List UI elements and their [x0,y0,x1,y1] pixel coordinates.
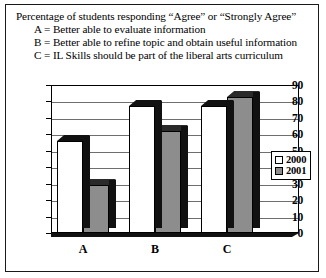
y-tick-label: 70 [292,113,303,123]
caption-line-b: B = Better able to refine topic and obta… [16,36,312,49]
bar-A-2000 [57,141,83,233]
bar-front-face [129,106,155,233]
bar-chart: ABC 0102030405060708090 [20,79,306,265]
y-tick-mark [46,217,51,218]
x-axis: ABC [51,242,299,258]
bar-side-face [253,92,260,228]
bar-front-face [201,106,227,233]
y-tick-label: 10 [292,212,303,222]
legend-label-2001: 2001 [286,166,306,176]
caption-line-c: C = IL Skills should be part of the libe… [16,49,312,62]
bar-series-group [51,85,299,233]
x-tick-label-B: B [151,242,159,257]
y-axis [20,79,46,233]
y-tick-mark [46,167,51,168]
chart-legend: 2000 2001 [271,151,311,180]
bar-side-face [227,101,234,228]
y-tick-mark [46,151,51,152]
y-tick-mark [46,134,51,135]
legend-item-2000: 2000 [275,154,306,165]
legend-swatch-2000 [275,156,283,164]
x-tick-label-C: C [223,242,232,257]
legend-label-2000: 2000 [286,155,306,165]
legend-swatch-2001 [275,167,283,175]
legend-item-2001: 2001 [275,165,306,176]
y-tick-mark [46,118,51,119]
caption-line-a: A = Better able to evaluate information [16,23,312,36]
bar-side-face [83,136,90,228]
bar-C-2000 [201,106,227,233]
y-tick-mark [46,233,51,234]
x-tick-label-A: A [79,242,88,257]
y-tick-mark [46,184,51,185]
y-tick-label: 20 [292,195,303,205]
chart-title: Percentage of students responding “Agree… [16,10,312,23]
chart-floor [51,233,299,240]
y-tick-label: 30 [292,179,303,189]
y-tick-mark [46,200,51,201]
bar-side-face [109,180,116,228]
caption-block: Percentage of students responding “Agree… [16,10,312,62]
bar-front-face [57,141,83,233]
bar-B-2000 [129,106,155,233]
y-tick-label: 90 [292,80,303,90]
bar-side-face [155,101,162,228]
bar-side-face [181,126,188,228]
chart-frame: Percentage of students responding “Agree… [5,4,319,272]
y-tick-label: 80 [292,96,303,106]
y-tick-mark [46,101,51,102]
y-tick-label: 0 [298,228,303,238]
y-tick-label: 60 [292,129,303,139]
y-tick-mark [46,85,51,86]
